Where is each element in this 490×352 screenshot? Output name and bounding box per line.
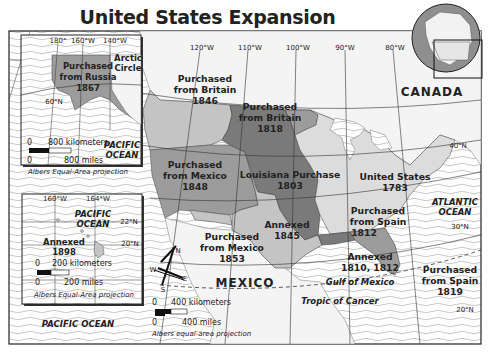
- svg-text:1898: 1898: [52, 247, 76, 257]
- svg-text:1819: 1819: [437, 286, 463, 297]
- svg-text:Annexed: Annexed: [43, 237, 85, 247]
- svg-text:from Mexico: from Mexico: [200, 242, 264, 253]
- svg-text:0: 0: [27, 156, 32, 165]
- svg-text:United States: United States: [360, 171, 431, 182]
- svg-text:160°W: 160°W: [43, 195, 67, 203]
- svg-text:22°N: 22°N: [120, 218, 138, 226]
- svg-text:from Spain: from Spain: [350, 216, 407, 227]
- svg-text:Louisiana Purchase: Louisiana Purchase: [240, 169, 340, 180]
- label-mexico: MEXICO: [216, 276, 275, 290]
- label-tropic-of-cancer: Tropic of Cancer: [301, 296, 379, 306]
- svg-text:0: 0: [35, 259, 40, 268]
- label-west-florida: Annexed 1810, 1812: [341, 251, 399, 273]
- svg-text:Purchased: Purchased: [178, 73, 232, 84]
- svg-text:Arctic: Arctic: [114, 53, 142, 63]
- svg-text:Purchased: Purchased: [423, 264, 477, 275]
- svg-text:1810, 1812: 1810, 1812: [341, 262, 399, 273]
- label-atlantic-2: OCEAN: [439, 207, 472, 217]
- svg-text:Circle: Circle: [114, 63, 141, 73]
- svg-text:140°W: 140°W: [103, 37, 127, 45]
- svg-text:164°W: 164°W: [86, 195, 110, 203]
- lon-label-100: 100°W: [286, 44, 310, 52]
- svg-text:OCEAN: OCEAN: [106, 150, 139, 160]
- lat-label-20: 20°N: [456, 306, 474, 314]
- hawaii-inset: 160°W 164°W 22°N 20°N PACIFIC OCEAN Anne…: [22, 194, 144, 306]
- svg-text:Albers equal-area projection: Albers equal-area projection: [151, 330, 251, 338]
- svg-text:1853: 1853: [219, 253, 245, 264]
- svg-text:W: W: [150, 266, 157, 274]
- svg-text:from Mexico: from Mexico: [163, 170, 227, 181]
- lon-label-120: 120°W: [190, 44, 214, 52]
- svg-text:Albers Equal-Area projection: Albers Equal-Area projection: [33, 291, 134, 299]
- svg-text:1867: 1867: [76, 83, 100, 93]
- svg-text:Albers Equal-Area projection: Albers Equal-Area projection: [27, 168, 128, 176]
- svg-text:1803: 1803: [277, 180, 303, 191]
- svg-text:Annexed: Annexed: [264, 219, 309, 230]
- svg-text:0: 0: [152, 298, 157, 307]
- svg-text:from Britain: from Britain: [174, 84, 237, 95]
- lon-label-90: 90°W: [335, 44, 354, 52]
- svg-text:1812: 1812: [351, 227, 377, 238]
- svg-text:from Russia: from Russia: [60, 72, 117, 82]
- svg-text:60°N: 60°N: [45, 98, 63, 106]
- lat-label-30: 30°N: [451, 223, 469, 231]
- svg-text:Purchased: Purchased: [243, 101, 297, 112]
- lon-label-80: 80°W: [385, 44, 404, 52]
- svg-text:180°: 180°: [50, 37, 67, 45]
- svg-text:PACIFIC: PACIFIC: [104, 140, 141, 150]
- alaska-inset: 180° 160°W 140°W 60°N Purchased from Rus…: [21, 35, 143, 176]
- svg-text:E: E: [183, 275, 187, 283]
- svg-text:N: N: [175, 247, 180, 255]
- svg-text:200 miles: 200 miles: [64, 278, 103, 287]
- svg-text:Purchased: Purchased: [205, 231, 259, 242]
- svg-text:from Britain: from Britain: [239, 112, 302, 123]
- svg-text:S: S: [161, 286, 166, 294]
- label-pacific-ocean: PACIFIC OCEAN: [42, 319, 114, 329]
- svg-text:Purchased: Purchased: [63, 61, 113, 71]
- lat-label-40: 40°N: [449, 142, 467, 150]
- svg-text:Purchased: Purchased: [168, 159, 222, 170]
- svg-text:200 kilometers: 200 kilometers: [52, 259, 112, 268]
- svg-text:800 miles: 800 miles: [64, 156, 103, 165]
- lon-label-110: 110°W: [238, 44, 262, 52]
- svg-text:400 kilometers: 400 kilometers: [171, 298, 231, 307]
- label-gulf-of-mexico: Gulf of Mexico: [326, 277, 395, 287]
- map-canvas: 120°W 110°W 100°W 90°W 80°W 40°N 30°N 20…: [0, 0, 490, 352]
- label-canada: CANADA: [401, 85, 464, 99]
- svg-text:Purchased: Purchased: [351, 205, 405, 216]
- svg-text:20°N: 20°N: [121, 240, 139, 248]
- svg-text:1818: 1818: [257, 123, 283, 134]
- svg-text:OCEAN: OCEAN: [77, 219, 110, 229]
- svg-text:400 miles: 400 miles: [182, 318, 221, 327]
- svg-text:PACIFIC: PACIFIC: [75, 209, 112, 219]
- svg-text:0: 0: [152, 318, 157, 327]
- svg-text:1783: 1783: [382, 182, 408, 193]
- svg-text:160°W: 160°W: [71, 37, 95, 45]
- label-atlantic-1: ATLANTIC: [431, 197, 479, 207]
- svg-text:800 kilometers: 800 kilometers: [48, 138, 108, 147]
- svg-text:from Spain: from Spain: [422, 275, 479, 286]
- svg-text:Annexed: Annexed: [347, 251, 392, 262]
- svg-text:0: 0: [35, 278, 40, 287]
- svg-text:1848: 1848: [182, 181, 208, 192]
- svg-text:1845: 1845: [274, 230, 300, 241]
- svg-text:1846: 1846: [192, 95, 218, 106]
- svg-text:0: 0: [27, 138, 32, 147]
